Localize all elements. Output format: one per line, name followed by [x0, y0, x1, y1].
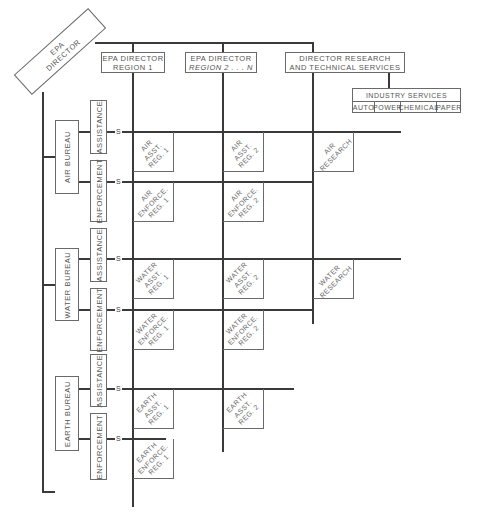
cell-air-enf-reg2: AIR ENFORCE. REG. 2 — [223, 182, 264, 222]
cell-label: EARTH ENFORCE. REG. 1 — [130, 436, 176, 482]
cell-label: AIR ENFORCE. REG. 1 — [130, 179, 176, 225]
earth-asst-link — [78, 388, 90, 390]
earth-assistance-label: ASSISTANCE — [94, 354, 103, 407]
cell-label: WATER ASST. REG. 2 — [225, 260, 262, 297]
water-asst-link — [78, 258, 90, 260]
epa-director-node: EPADIRECTOR — [14, 8, 106, 95]
air-enforcement: ENFORCEMENT — [90, 160, 107, 222]
cell-water-asst-reg2: WATER ASST. REG. 2 — [223, 259, 264, 299]
cell-label: WATER ENFORCE. REG. 2 — [220, 307, 266, 353]
s-marker: S — [115, 255, 122, 262]
cell-air-asst-reg1: AIR ASST. REG. 1 — [133, 132, 174, 172]
water-enforcement: ENFORCEMENT — [90, 288, 107, 351]
air-assistance-label: ASSISTANCE — [94, 101, 103, 154]
region2-header: EPA DIRECTORREGION 2 . . . N — [185, 52, 257, 73]
earth-enforcement: ENFORCEMENT — [90, 413, 107, 480]
earth-enf-link — [78, 438, 90, 440]
cell-earth-asst-reg2: EARTH ASST. REG. 2 — [223, 389, 264, 429]
s-marker: S — [115, 128, 122, 135]
earth-bureau-label: EARTH BUREAU — [63, 381, 72, 447]
cell-earth-enf-reg1: EARTH ENFORCE. REG. 1 — [133, 439, 174, 479]
top-connector — [95, 42, 313, 44]
water-assistance: ASSISTANCE — [90, 228, 107, 282]
region2-line2: REGION 2 . . . N — [189, 63, 253, 72]
cell-water-enf-reg2: WATER ENFORCE. REG. 2 — [223, 310, 264, 350]
air-asst-link — [78, 131, 90, 133]
industry-services-table: INDUSTRY SERVICES AUTO POWER CHEMICAL PA… — [352, 88, 461, 113]
air-bureau-label: AIR BUREAU — [63, 131, 72, 183]
cell-label: EARTH ASST. REG. 1 — [135, 390, 171, 426]
water-enforcement-label: ENFORCEMENT — [94, 287, 103, 352]
cell-label: EARTH ASST. REG. 2 — [225, 390, 261, 426]
air-enf-link — [78, 181, 90, 183]
s-marker: S — [115, 306, 122, 313]
cell-label: AIR RESEARCH — [312, 131, 354, 173]
earth-bureau: EARTH BUREAU — [55, 376, 79, 451]
cell-water-asst-reg1: WATER ASST. REG. 1 — [133, 259, 174, 299]
air-assistance: ASSISTANCE — [90, 100, 107, 154]
cell-label: WATER ENFORCE. REG. 1 — [130, 307, 176, 353]
industry-power: POWER — [375, 102, 401, 113]
research-header: DIRECTOR RESEARCHAND TECHNICAL SERVICES — [285, 52, 405, 73]
air-bureau: AIR BUREAU — [55, 120, 79, 194]
cell-air-enf-reg1: AIR ENFORCE. REG. 1 — [133, 182, 174, 222]
cell-label: WATER RESEARCH — [312, 258, 354, 300]
air-trunk-link — [42, 156, 55, 158]
cell-water-enf-reg1: WATER ENFORCE. REG. 1 — [133, 310, 174, 350]
earth-trunk-link — [42, 491, 55, 493]
cell-air-research: AIR RESEARCH — [313, 132, 354, 172]
water-bureau: WATER BUREAU — [55, 248, 79, 321]
water-enf-link — [78, 309, 90, 311]
s-marker: S — [115, 178, 122, 185]
water-bureau-label: WATER BUREAU — [63, 251, 72, 318]
cell-label: AIR ENFORCE. REG. 2 — [220, 179, 266, 225]
industry-chemical: CHEMICAL — [401, 102, 437, 113]
water-trunk-link — [42, 284, 55, 286]
cell-earth-asst-reg1: EARTH ASST. REG. 1 — [133, 389, 174, 429]
cell-label: WATER ASST. REG. 1 — [135, 260, 172, 297]
region2-line1: EPA DIRECTOR — [189, 54, 253, 63]
industry-auto: AUTO — [353, 102, 375, 113]
cell-air-asst-reg2: AIR ASST. REG. 2 — [223, 132, 264, 172]
main-bureau-trunk — [42, 92, 44, 492]
earth-assistance: ASSISTANCE — [90, 354, 107, 407]
water-assistance-label: ASSISTANCE — [94, 229, 103, 282]
industry-connector — [388, 72, 390, 88]
industry-paper: PAPER — [437, 102, 461, 113]
cell-label: AIR ASST. REG. 2 — [225, 134, 261, 170]
research-line1: DIRECTOR RESEARCH — [290, 54, 401, 63]
earth-enforcement-label: ENFORCEMENT — [94, 414, 103, 479]
cell-label: AIR ASST. REG. 1 — [135, 134, 171, 170]
s-marker: S — [115, 435, 122, 442]
cell-water-research: WATER RESEARCH — [313, 259, 354, 299]
industry-services-title: INDUSTRY SERVICES — [353, 89, 460, 102]
region1-line1: EPA DIRECTOR — [102, 54, 163, 63]
region1-line2: REGION 1 — [102, 63, 163, 72]
region1-header: EPA DIRECTORREGION 1 — [101, 52, 165, 73]
research-line2: AND TECHNICAL SERVICES — [290, 63, 401, 72]
air-enforcement-label: ENFORCEMENT — [94, 159, 103, 224]
s-marker: S — [115, 385, 122, 392]
